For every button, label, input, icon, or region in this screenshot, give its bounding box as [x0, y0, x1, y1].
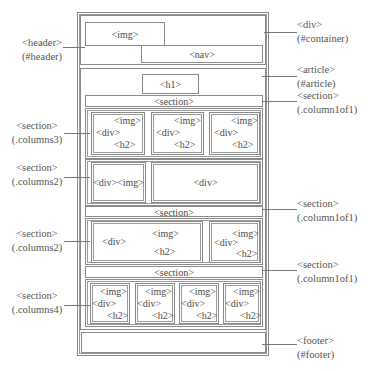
img-label: <img> [189, 286, 216, 297]
footer-box [81, 332, 266, 353]
img-label: <img> [231, 115, 258, 126]
img-label: <img> [152, 228, 179, 239]
h2-label: <h2> [232, 139, 253, 150]
div-label: <div> [214, 127, 238, 138]
columns3-item-2: <img> <div> <h2> [151, 112, 204, 155]
footer-leader-line [262, 344, 297, 345]
columns3-annotation: <section> (.columns3) [5, 119, 69, 147]
h2-label: <h2> [114, 139, 135, 150]
section2-tag: <section> [297, 197, 357, 211]
div-label: <div> [156, 127, 180, 138]
columns2a-left: <div><img> [91, 162, 146, 203]
header-img-label: <img> [86, 29, 164, 40]
section3-class: (.column1of1) [297, 272, 357, 286]
header-tag: <header> [18, 36, 66, 50]
article-annotation: <article> (#article) [297, 63, 335, 91]
header-img-box: <img> [85, 22, 165, 46]
footer-annotation: <footer> (#footer) [297, 334, 334, 362]
header-annotation: <header> (#header) [18, 36, 66, 64]
section3-leader-line [262, 270, 297, 271]
div-label: <div> [152, 177, 259, 188]
columns2a-class: (.columns2) [5, 175, 69, 189]
section-column1of1-3: <section> [85, 266, 263, 278]
div-img-label: <div><img> [93, 177, 144, 188]
section2-leader-line [262, 209, 297, 210]
section-column1of1-2: <section> [85, 206, 263, 217]
article-tag: <article> [297, 63, 335, 77]
footer-tag: <footer> [297, 334, 334, 348]
columns2b-left: <div> <img> <h2> [91, 221, 203, 263]
columns4-item-2: <img> <div> <h2> [135, 283, 175, 324]
h2-label: <h2> [196, 310, 217, 321]
div-label: <div> [214, 237, 238, 248]
columns3-tag: <section> [5, 119, 69, 133]
section-column1of1-1: <section> [85, 95, 263, 107]
columns2a-leader-line [64, 177, 90, 178]
div-label: <div> [92, 298, 116, 309]
div-label: <div> [181, 298, 205, 309]
section1-leader-line [262, 101, 297, 102]
h2-label: <h2> [174, 139, 195, 150]
h2-label: <h2> [240, 310, 261, 321]
section1-tag: <section> [297, 89, 357, 103]
columns4-item-4: <img> <div> <h2> [223, 283, 261, 324]
article-leader-line [262, 76, 297, 77]
columns3-item-1: <img> <div> <h2> [91, 112, 145, 155]
columns3-item-3: <img> <div> <h2> [209, 112, 260, 155]
columns2b-tag: <section> [5, 227, 69, 241]
columns4-leader-line [64, 305, 90, 306]
h2-label: <h2> [152, 310, 173, 321]
section3-annotation: <section> (.column1of1) [297, 258, 357, 286]
columns4-item-3: <img> <div> <h2> [179, 283, 219, 324]
img-label: <img> [100, 286, 127, 297]
img-label: <img> [174, 115, 201, 126]
columns3-class: (.columns3) [5, 133, 69, 147]
div-label: <div> [225, 298, 249, 309]
footer-id: (#footer) [297, 348, 334, 362]
h2-label: <h2> [236, 248, 257, 259]
columns4-item-1: <img> <div> <h2> [90, 283, 130, 324]
h1-box: <h1> [142, 74, 199, 94]
img-label: <img> [145, 286, 172, 297]
columns2a-tag: <section> [5, 161, 69, 175]
img-label: <img> [233, 286, 260, 297]
columns2b-leader-line [64, 241, 90, 242]
h1-label: <h1> [143, 79, 198, 90]
section2-class: (.column1of1) [297, 211, 357, 225]
nav-label: <nav> [142, 49, 262, 60]
section3-tag: <section> [297, 258, 357, 272]
div-label: <div> [96, 127, 120, 138]
columns2b-class: (.columns2) [5, 241, 69, 255]
columns3-leader-line [64, 133, 90, 134]
columns2b-annotation: <section> (.columns2) [5, 227, 69, 255]
section1-class: (.column1of1) [297, 103, 357, 117]
img-label: <img> [114, 115, 141, 126]
h2-label: <h2> [154, 246, 175, 257]
container-id: (#container) [297, 32, 348, 46]
header-leader-line [63, 47, 85, 48]
columns4-annotation: <section> (.columns4) [5, 289, 69, 317]
container-leader-line [264, 32, 297, 33]
container-annotation: <div> (#container) [297, 18, 348, 46]
section-label-3: <section> [86, 267, 262, 278]
section-label-1: <section> [86, 96, 262, 107]
section1-annotation: <section> (.column1of1) [297, 89, 357, 117]
section-label-2: <section> [86, 207, 262, 218]
section2-annotation: <section> (.column1of1) [297, 197, 357, 225]
container-tag: <div> [297, 18, 348, 32]
columns2b-right: <img> <div> <h2> [209, 221, 260, 263]
h2-label: <h2> [107, 310, 128, 321]
columns4-tag: <section> [5, 289, 69, 303]
columns2a-right: <div> [151, 162, 260, 203]
div-label: <div> [102, 236, 126, 247]
div-label: <div> [137, 298, 161, 309]
header-id: (#header) [18, 50, 66, 64]
nav-box: <nav> [141, 45, 263, 63]
columns2a-annotation: <section> (.columns2) [5, 161, 69, 189]
columns4-class: (.columns4) [5, 303, 69, 317]
